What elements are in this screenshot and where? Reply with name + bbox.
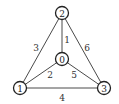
node-2: 2: [56, 7, 69, 20]
node-0: 0: [56, 53, 69, 66]
edge-0-3: [62, 59, 104, 88]
node-label: 0: [59, 55, 65, 65]
edge-weight-label: 2: [47, 70, 53, 80]
edge-2-3: [62, 13, 104, 88]
node-label: 1: [17, 84, 23, 94]
edge-weight-label: 3: [33, 43, 39, 53]
edge-2-1: [20, 13, 62, 88]
node-3: 3: [98, 82, 111, 95]
weighted-graph-diagram: 123456 0123: [0, 0, 119, 104]
edge-1-0: [20, 59, 62, 88]
edge-weight-label: 5: [71, 70, 77, 80]
node-label: 3: [101, 84, 107, 94]
edge-weight-label: 4: [59, 93, 65, 103]
node-1: 1: [14, 82, 27, 95]
edge-weight-label: 6: [84, 43, 90, 53]
edge-weight-label: 1: [64, 35, 70, 45]
node-label: 2: [59, 9, 65, 19]
